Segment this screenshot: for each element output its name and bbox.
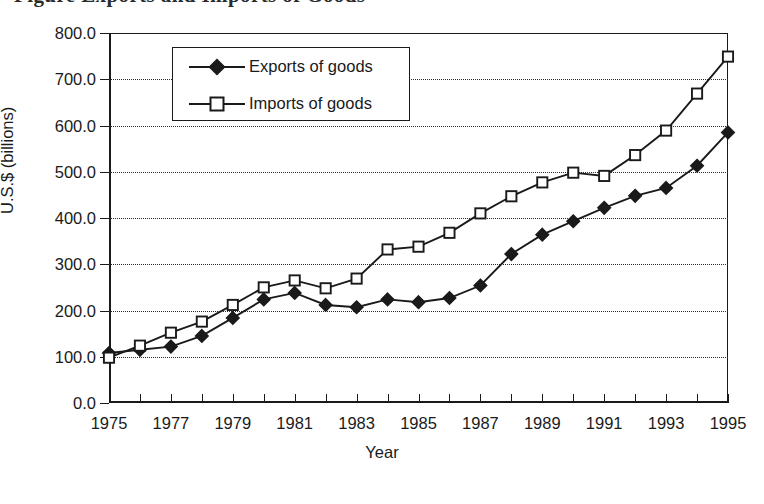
chart-legend: Exports of goods Imports of goods	[172, 47, 410, 121]
data-point-marker-square	[321, 283, 331, 293]
x-axis-tick-label: 1993	[648, 414, 685, 433]
y-axis-tick-label: 500.0	[55, 162, 96, 181]
data-point-marker-diamond	[227, 312, 239, 324]
y-axis-tick-label: 300.0	[55, 255, 96, 274]
data-point-marker-diamond	[319, 299, 331, 311]
legend-item-imports[interactable]: Imports of goods	[173, 85, 409, 122]
y-axis-tick	[100, 311, 109, 312]
y-axis-tick-label: 700.0	[55, 70, 96, 89]
x-axis-tick-label: 1981	[276, 414, 313, 433]
data-point-marker-square	[692, 88, 702, 98]
x-axis-tick	[728, 394, 729, 403]
data-point-marker-square	[413, 242, 423, 252]
x-axis-tick-label: 1985	[400, 414, 437, 433]
data-point-marker-square	[259, 282, 269, 292]
data-point-marker-diamond	[536, 228, 548, 240]
y-axis-title: U.S.$ (billions)	[0, 107, 17, 214]
x-axis-tick-label: 1995	[710, 414, 747, 433]
legend-item-exports[interactable]: Exports of goods	[173, 48, 409, 85]
data-point-marker-diamond	[629, 190, 641, 202]
legend-label-exports: Exports of goods	[249, 57, 373, 76]
data-point-marker-square	[135, 341, 145, 351]
y-axis-tick-label: 100.0	[55, 347, 96, 366]
y-axis-tick-label: 400.0	[55, 209, 96, 228]
data-point-marker-diamond	[289, 287, 301, 299]
y-axis-tick	[100, 33, 109, 34]
x-axis-tick-label: 1977	[153, 414, 190, 433]
data-point-marker-square	[352, 273, 362, 283]
data-point-marker-diamond	[660, 182, 672, 194]
y-axis-tick-label: 800.0	[55, 24, 96, 43]
data-point-marker-square	[630, 150, 640, 160]
data-point-marker-diamond	[567, 215, 579, 227]
data-point-marker-square	[197, 317, 207, 327]
y-axis-tick	[100, 172, 109, 173]
data-point-marker-diamond	[381, 293, 393, 305]
data-point-marker-square	[568, 168, 578, 178]
chart-figure: 0.0100.0200.0300.0400.0500.0600.0700.080…	[0, 0, 764, 504]
data-point-marker-square	[444, 228, 454, 238]
data-point-marker-diamond	[443, 292, 455, 304]
data-point-marker-diamond	[412, 296, 424, 308]
y-axis-tick-label: 600.0	[55, 116, 96, 135]
legend-key-open-square-icon	[187, 93, 247, 115]
y-axis-tick	[100, 218, 109, 219]
y-axis-tick	[100, 126, 109, 127]
x-axis-tick-label: 1987	[462, 414, 499, 433]
data-point-marker-square	[475, 208, 485, 218]
y-axis-tick-label: 200.0	[55, 301, 96, 320]
data-point-marker-square	[228, 300, 238, 310]
data-point-marker-square	[599, 171, 609, 181]
legend-key-filled-diamond-icon	[187, 56, 247, 78]
data-point-marker-diamond	[258, 293, 270, 305]
y-axis-tick	[100, 79, 109, 80]
x-axis-tick-label: 1975	[91, 414, 128, 433]
data-point-marker-diamond	[165, 340, 177, 352]
x-axis-tick-label: 1983	[338, 414, 375, 433]
legend-label-imports: Imports of goods	[249, 94, 372, 113]
data-point-marker-square	[382, 244, 392, 254]
x-axis-tick-label: 1979	[214, 414, 251, 433]
data-point-marker-square	[104, 353, 114, 363]
data-point-marker-square	[537, 177, 547, 187]
y-axis-tick	[100, 403, 109, 404]
data-point-marker-diamond	[196, 330, 208, 342]
data-point-marker-diamond	[598, 202, 610, 214]
x-axis-tick-label: 1989	[524, 414, 561, 433]
data-point-marker-square	[290, 275, 300, 285]
data-point-marker-square	[723, 51, 733, 61]
data-point-marker-square	[166, 328, 176, 338]
x-axis-tick-label: 1991	[586, 414, 623, 433]
data-point-marker-diamond	[350, 301, 362, 313]
y-axis-tick	[100, 264, 109, 265]
x-axis-title: Year	[0, 443, 764, 462]
data-point-marker-square	[661, 125, 671, 135]
y-axis-tick-label: 0.0	[73, 394, 96, 413]
data-point-marker-square	[506, 191, 516, 201]
